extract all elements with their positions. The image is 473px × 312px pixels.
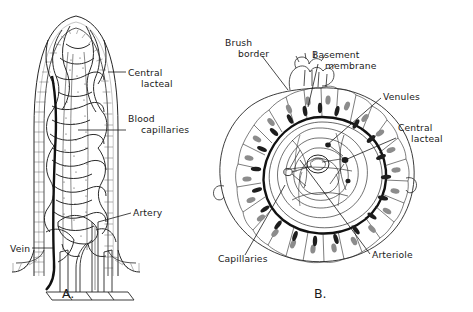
label-central-lacteal: Central [128, 67, 163, 78]
label-basement-membrane-2: membrane [325, 60, 377, 71]
label-artery-line1: Artery [133, 207, 163, 218]
label-artery: Artery [133, 207, 163, 218]
label-arteriole: Arteriole [372, 249, 413, 260]
label-arteriole-line1: Arteriole [372, 249, 413, 260]
venule-lumen-1 [325, 143, 331, 148]
label-capillaries: Capillaries [218, 253, 268, 264]
label-blood-capillaries-line1: Blood [128, 113, 155, 124]
label-blood-capillaries-2: capillaries [141, 124, 189, 135]
label-vein: Vein [10, 243, 30, 254]
label-central-lacteal-2: lacteal [141, 78, 173, 89]
label-central-lacteal-b: Central [398, 122, 433, 133]
label-brush-border-line1: Brush [225, 37, 252, 48]
label-capillaries-line1: Capillaries [218, 253, 268, 264]
label-central-lacteal-line2: lacteal [141, 78, 173, 89]
venule-lumen-2 [345, 179, 350, 183]
villus-figure: Central lacteal Blood capillaries Artery… [0, 0, 473, 312]
label-venules: Venules [383, 91, 420, 102]
label-blood-capillaries-line2: capillaries [141, 124, 189, 135]
label-blood-capillaries: Blood [128, 113, 155, 124]
label-brush-border-line2: border [238, 48, 269, 59]
panel-caption-b: B. [314, 286, 327, 301]
label-vein-line1: Vein [10, 243, 30, 254]
label-brush-border: Brush [225, 37, 252, 48]
label-basement-membrane: Basement [312, 49, 360, 60]
label-brush-border-2: border [238, 48, 269, 59]
label-central-lacteal-line1: Central [128, 67, 163, 78]
panel-caption-a: A. [62, 286, 74, 301]
label-central-lacteal-b-line1: Central [398, 122, 433, 133]
label-basement-membrane-line2: membrane [325, 60, 377, 71]
label-basement-membrane-line1: Basement [312, 49, 360, 60]
label-central-lacteal-b-line2: lacteal [411, 133, 443, 144]
label-venules-line1: Venules [383, 91, 420, 102]
label-central-lacteal-b-2: lacteal [411, 133, 443, 144]
